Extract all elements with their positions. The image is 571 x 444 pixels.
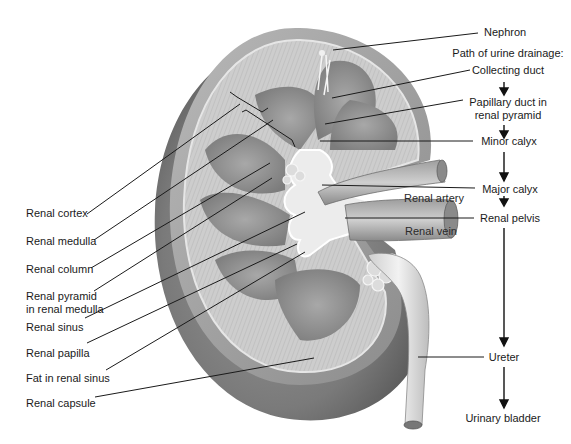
label-fat-in-renal-sinus: Fat in renal sinus (26, 372, 110, 385)
label-renal-pyramid-line1: Renal pyramid (26, 290, 104, 303)
label-renal-sinus: Renal sinus (26, 321, 83, 334)
label-minor-calyx: Minor calyx (481, 135, 537, 148)
label-renal-column: Renal column (26, 263, 93, 276)
label-renal-artery: Renal artery (404, 192, 464, 205)
label-papillary-duct-line1: Papillary duct in (469, 96, 547, 109)
label-major-calyx: Major calyx (482, 183, 538, 196)
path-of-urine-drainage-heading: Path of urine drainage: (452, 47, 563, 60)
label-renal-vein: Renal vein (405, 225, 457, 238)
label-papillary-duct: Papillary duct in renal pyramid (469, 96, 547, 122)
label-renal-pyramid-line2: in renal medulla (26, 303, 104, 316)
label-urinary-bladder: Urinary bladder (465, 412, 540, 425)
label-renal-pyramid: Renal pyramid in renal medulla (26, 290, 104, 316)
label-nephron: Nephron (484, 26, 526, 39)
label-renal-cortex: Renal cortex (26, 207, 88, 220)
label-papillary-duct-line2: renal pyramid (469, 109, 547, 122)
label-renal-papilla: Renal papilla (26, 347, 90, 360)
label-renal-capsule: Renal capsule (26, 397, 96, 410)
label-renal-medulla: Renal medulla (26, 235, 96, 248)
label-renal-pelvis: Renal pelvis (480, 212, 540, 225)
label-ureter: Ureter (489, 351, 520, 364)
label-collecting-duct: Collecting duct (472, 64, 544, 77)
